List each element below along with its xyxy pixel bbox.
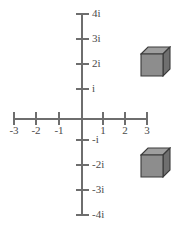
- imaginary-axis: [81, 13, 83, 215]
- y-axis-label--4i: -4i: [92, 209, 104, 220]
- x-axis-label--2: -2: [26, 125, 46, 136]
- tick-y--2i: [76, 164, 89, 166]
- cube-front-face: [141, 54, 163, 76]
- tick-y--3i: [76, 189, 89, 191]
- cube-marker-lower: [140, 147, 171, 178]
- tick-y-3i: [76, 38, 89, 40]
- y-axis-label-4i: 4i: [92, 8, 101, 19]
- y-axis-label--3i: -3i: [92, 184, 104, 195]
- x-axis-label-2: 2: [115, 125, 135, 136]
- complex-plane-figure: -3 -2 -1 1 2 3 4i 3i 2i i -i -2i -3i -4i: [0, 0, 184, 229]
- y-axis-label-2i: 2i: [92, 58, 101, 69]
- x-axis-label-3: 3: [137, 125, 157, 136]
- tick-y-4i: [76, 13, 89, 15]
- tick-y--4i: [76, 214, 89, 216]
- tick-y-i: [76, 88, 89, 90]
- y-axis-label--2i: -2i: [92, 159, 104, 170]
- x-axis-label--3: -3: [4, 125, 24, 136]
- y-axis-label-i: i: [92, 83, 95, 94]
- cube-front-face: [141, 155, 163, 177]
- tick-y--i: [76, 139, 89, 141]
- real-axis: [13, 118, 147, 120]
- cube-marker-upper: [140, 46, 171, 77]
- y-axis-label-3i: 3i: [92, 33, 101, 44]
- y-axis-label--i: -i: [92, 134, 99, 145]
- tick-y-2i: [76, 63, 89, 65]
- x-axis-label--1: -1: [49, 125, 69, 136]
